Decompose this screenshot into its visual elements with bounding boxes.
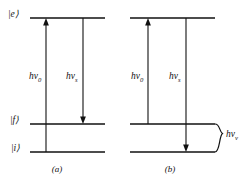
figure-container: |e⟩ |f⟩ |i⟩ hν0 hνs (a)	[0, 0, 251, 180]
panel-a-transition-stokes-emission: hνs	[66, 18, 86, 124]
brace-icon	[215, 124, 223, 152]
panel-b-anti-stokes-label-sub: s	[178, 76, 181, 83]
panel-b-anti-stokes-arrowhead	[183, 145, 189, 153]
panel-a-caption: (a)	[52, 164, 63, 174]
panel-b-absorption-label-sub: 0	[140, 76, 144, 83]
panel-b: hν0 hνs hνv (b)	[130, 18, 238, 174]
energy-level-diagram: |e⟩ |f⟩ |i⟩ hν0 hνs (a)	[0, 0, 251, 180]
panel-b-brace-label: hνv	[226, 129, 238, 141]
panel-b-absorption-arrowhead	[145, 18, 151, 26]
panel-a-stokes-label-sub: s	[75, 76, 78, 83]
panel-a: |e⟩ |f⟩ |i⟩ hν0 hνs (a)	[8, 9, 105, 174]
panel-b-brace-label-sub: v	[235, 134, 238, 141]
panel-a-level-i-label: |i⟩	[11, 143, 20, 153]
panel-b-absorption-label: hν0	[131, 71, 144, 83]
panel-b-transition-absorption: hν0	[131, 18, 151, 124]
panel-a-transition-absorption: hν0	[29, 18, 49, 152]
panel-a-absorption-arrowhead	[43, 18, 49, 26]
panel-a-stokes-label: hνs	[66, 71, 78, 83]
panel-b-caption: (b)	[165, 164, 176, 174]
panel-a-absorption-label: hν0	[29, 71, 42, 83]
panel-a-stokes-arrowhead	[80, 117, 86, 125]
panel-a-level-e-label: |e⟩	[8, 9, 19, 19]
panel-b-vibrational-brace: hνv	[215, 124, 238, 152]
panel-a-absorption-label-sub: 0	[38, 76, 42, 83]
panel-b-anti-stokes-label: hνs	[169, 71, 181, 83]
panel-b-transition-anti-stokes-emission: hνs	[169, 18, 189, 152]
panel-a-level-f-label: |f⟩	[10, 115, 19, 125]
